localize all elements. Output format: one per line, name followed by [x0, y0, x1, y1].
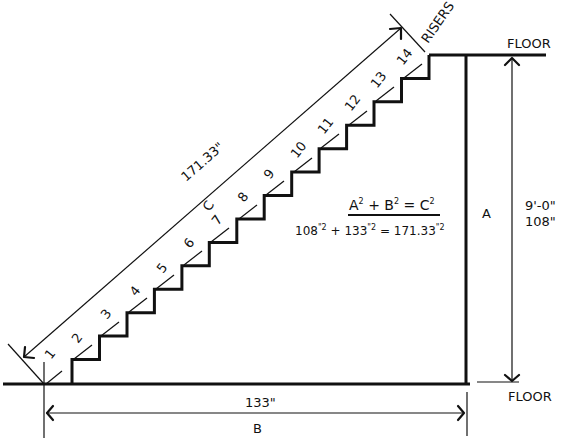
riser-number-5: 5	[154, 260, 171, 276]
riser-number-6: 6	[181, 235, 198, 251]
rise-letter-label: A	[482, 206, 491, 221]
rise-inches-label: 108"	[525, 214, 556, 229]
riser-number-13: 13	[368, 69, 390, 91]
riser-number-7: 7	[209, 212, 226, 228]
riser-number-4: 4	[127, 283, 144, 299]
riser-number-1: 1	[42, 346, 59, 362]
run-value-label: 133"	[245, 395, 276, 410]
riser-number-2: 2	[69, 330, 86, 346]
risers-label: RISERS	[418, 0, 457, 46]
stair-profile	[72, 55, 429, 384]
svg-text:A2 + B2 = C2: A2 + B2 = C2	[349, 197, 435, 213]
riser-number-3: 3	[98, 306, 115, 322]
stair-diagram: 1 2 3 4 5 6 7 8 9 10 11 12 13 14 171.33"…	[0, 0, 562, 444]
riser-number-11: 11	[315, 115, 337, 137]
diagonal-letter-label: C	[200, 198, 218, 213]
floor-top-label: FLOOR	[507, 36, 551, 51]
formula-b: B	[384, 197, 394, 213]
run-letter-label: B	[253, 421, 262, 436]
diagonal-dimension-line	[24, 28, 401, 357]
pythagorean-formula: A2 + B2 = C2 108"2 + 133"2 = 171.33"2	[295, 197, 445, 238]
riser-number-9: 9	[261, 166, 278, 182]
diagonal-value-label: 171.33"	[178, 139, 227, 184]
riser-number-10: 10	[288, 139, 310, 161]
formula-a: A	[349, 197, 359, 213]
formula-c: C	[420, 197, 430, 213]
riser-number-14: 14	[394, 46, 416, 68]
riser-number-12: 12	[342, 92, 364, 114]
rise-feet-label: 9'-0"	[525, 198, 556, 213]
svg-text:108"2 + 133"2 = 171.33"2: 108"2 + 133"2 = 171.33"2	[295, 223, 445, 238]
floor-bottom-label: FLOOR	[508, 389, 552, 404]
diagonal-extension-bottom	[8, 344, 44, 384]
riser-number-8: 8	[235, 189, 252, 205]
